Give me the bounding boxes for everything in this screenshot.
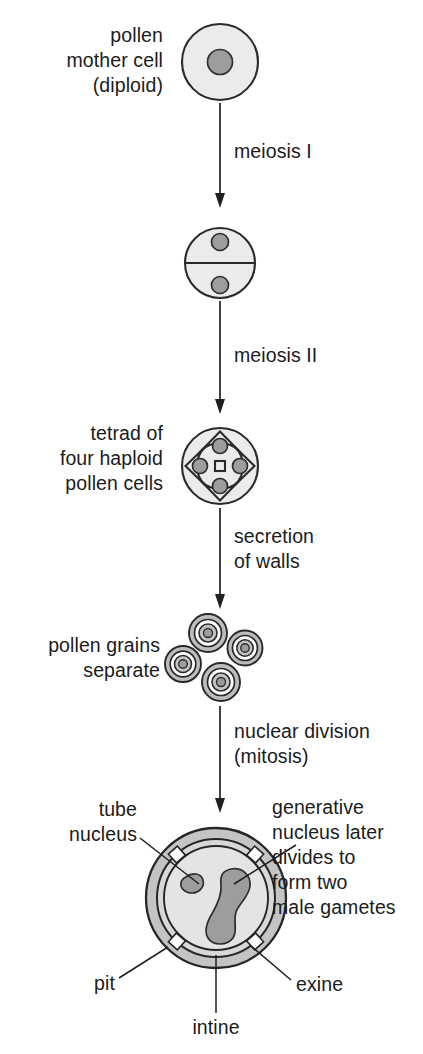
arrow-meiosis-1: meiosis I bbox=[215, 103, 312, 208]
arrow-meiosis-2-head bbox=[215, 399, 225, 414]
pollen-grains-label-line-2: separate bbox=[83, 659, 160, 681]
arrow-secretion: secretion of walls bbox=[215, 508, 314, 609]
diagram-canvas: pollen mother cell (diploid) meiosis I m… bbox=[0, 0, 423, 1054]
two-cell-nucleus-lower bbox=[212, 277, 229, 294]
stage-pollen-mother-cell: pollen mother cell (diploid) bbox=[67, 24, 258, 100]
tube-nucleus-label-line-2: nucleus bbox=[69, 823, 137, 845]
stage-tetrad: tetrad of four haploid pollen cells bbox=[60, 422, 258, 504]
pollen-grain bbox=[165, 646, 201, 682]
pit-label: pit bbox=[94, 972, 115, 994]
pollen-grain bbox=[228, 631, 263, 666]
arrow-mitosis-head bbox=[215, 798, 225, 813]
exine-label: exine bbox=[296, 973, 343, 995]
pollen-mother-cell-label-line-1: pollen bbox=[110, 24, 163, 46]
tube-nucleus-label-line-1: tube bbox=[99, 798, 137, 820]
pollen-mother-cell-nucleus bbox=[208, 50, 233, 75]
pollen-grains-label-line-1: pollen grains bbox=[48, 634, 160, 656]
tetrad-nucleus-bottom bbox=[213, 479, 228, 494]
tetrad-label-line-2: four haploid bbox=[60, 447, 163, 469]
generative-nucleus-label-line-3: divides to bbox=[272, 846, 355, 868]
pollen-grain bbox=[189, 614, 227, 652]
pollen-formation-diagram: pollen mother cell (diploid) meiosis I m… bbox=[0, 0, 423, 1054]
stage-two-cell bbox=[185, 228, 255, 298]
tetrad-nucleus-right bbox=[233, 459, 248, 474]
pollen-mother-cell-label-line-2: mother cell bbox=[67, 49, 163, 71]
stage-mature-pollen-grain: tube nucleus generative nucleus later di… bbox=[69, 796, 396, 1038]
generative-nucleus-label-line-1: generative bbox=[272, 796, 364, 818]
pollen-mother-cell-label-line-3: (diploid) bbox=[93, 74, 163, 96]
arrow-meiosis-1-head bbox=[215, 193, 225, 208]
arrow-mitosis-label-line-2: (mitosis) bbox=[234, 745, 309, 767]
generative-nucleus-label-line-5: male gametes bbox=[272, 896, 396, 918]
arrow-meiosis-2: meiosis II bbox=[215, 301, 317, 414]
two-cell-nucleus-upper bbox=[212, 234, 229, 251]
arrow-secretion-head bbox=[215, 594, 225, 609]
leader-pit bbox=[119, 947, 168, 978]
pollen-grain bbox=[202, 663, 240, 701]
tetrad-center-square bbox=[215, 461, 225, 471]
arrow-mitosis-label-line-1: nuclear division bbox=[234, 720, 370, 742]
intine-label: intine bbox=[192, 1016, 239, 1038]
arrow-meiosis-2-label: meiosis II bbox=[234, 344, 317, 366]
tetrad-label-line-3: pollen cells bbox=[65, 472, 163, 494]
arrow-secretion-label-line-1: secretion bbox=[234, 525, 314, 547]
stage-pollen-grains-separate: pollen grains separate bbox=[48, 614, 262, 701]
leader-exine bbox=[250, 945, 291, 980]
generative-nucleus-label-line-2: nucleus later bbox=[272, 821, 384, 843]
tetrad-nucleus-left bbox=[193, 459, 208, 474]
arrow-meiosis-1-label: meiosis I bbox=[234, 140, 312, 162]
generative-nucleus-label-line-4: form two bbox=[272, 871, 348, 893]
arrow-secretion-label-line-2: of walls bbox=[234, 550, 300, 572]
tetrad-nucleus-top bbox=[213, 439, 228, 454]
tetrad-label-line-1: tetrad of bbox=[91, 422, 164, 444]
